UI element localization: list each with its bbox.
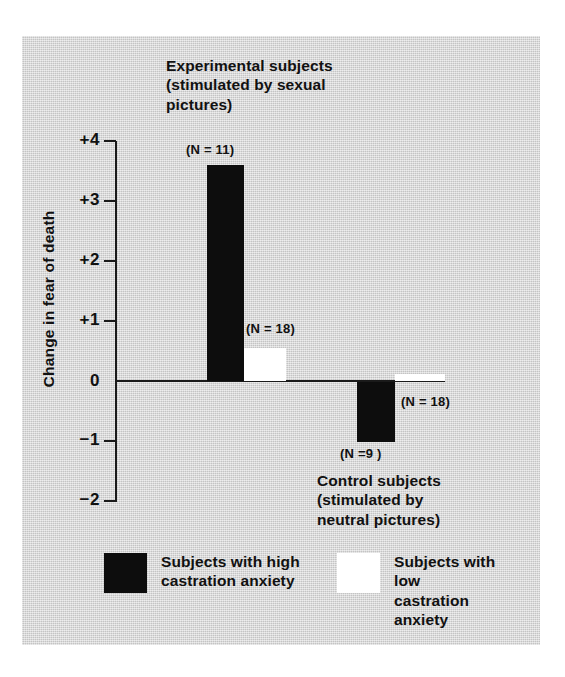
y-tick-minus-2 — [104, 500, 116, 502]
experimental-caption-line-3: pictures) — [166, 95, 333, 114]
legend-item-low-anxiety: Subjects with low castration anxiety — [337, 552, 504, 630]
y-tick-2 — [104, 260, 116, 262]
y-tick-label-1: +1 — [44, 311, 100, 328]
chart-figure: Change in fear of death +4 +3 +2 +1 0 −1 — [0, 0, 565, 677]
y-tick-label-3: +3 — [44, 191, 100, 208]
y-tick-4 — [104, 140, 116, 142]
bar-note-experimental-low: (N = 18) — [246, 321, 295, 336]
bar-note-control-low: (N = 18) — [401, 394, 450, 409]
y-tick-label-minus-2: −2 — [44, 491, 100, 508]
y-tick-1 — [104, 320, 116, 322]
y-tick-label-minus-1: −1 — [44, 431, 100, 448]
chart-legend: Subjects with high castration anxiety Su… — [104, 552, 504, 610]
control-caption-line-3: neutral pictures) — [317, 510, 441, 529]
legend-swatch-light-icon — [337, 553, 380, 593]
y-tick-label-2: +2 — [44, 251, 100, 268]
bar-experimental-low-anxiety — [244, 348, 286, 381]
bar-control-low-anxiety — [395, 374, 445, 381]
legend-label-low-anxiety: Subjects with low castration anxiety — [394, 552, 504, 630]
bar-control-high-anxiety — [357, 382, 395, 442]
y-tick-minus-1 — [104, 440, 116, 442]
y-tick-3 — [104, 200, 116, 202]
plot-area: Change in fear of death +4 +3 +2 +1 0 −1 — [0, 0, 565, 677]
control-caption-line-1: Control subjects — [317, 471, 441, 490]
bar-note-control-high: (N =9 ) — [340, 446, 382, 461]
legend-label-high-anxiety: Subjects with high castration anxiety — [161, 552, 300, 591]
y-tick-label-0: 0 — [44, 372, 100, 389]
y-tick-label-4: +4 — [44, 131, 100, 148]
control-group-caption: Control subjects (stimulated by neutral … — [317, 471, 441, 529]
experimental-caption-line-1: Experimental subjects — [166, 56, 333, 75]
experimental-group-caption: Experimental subjects (stimulated by sex… — [166, 56, 333, 114]
legend-item-high-anxiety: Subjects with high castration anxiety — [104, 552, 300, 593]
bar-note-experimental-high: (N = 11) — [186, 142, 234, 157]
bar-experimental-high-anxiety — [207, 165, 244, 381]
control-caption-line-2: (stimulated by — [317, 490, 441, 509]
legend-swatch-dark-icon — [104, 553, 147, 593]
experimental-caption-line-2: (stimulated by sexual — [166, 75, 333, 94]
